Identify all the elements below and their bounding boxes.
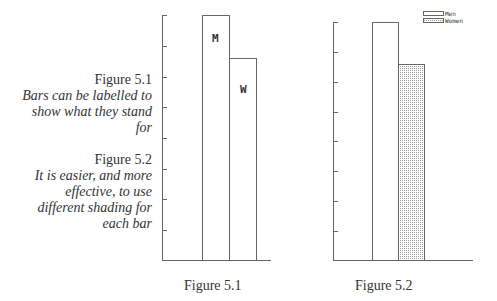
bar-women <box>399 65 425 261</box>
legend-label-women: Women <box>445 17 463 24</box>
caption-title: Figure 5.2 <box>0 152 152 168</box>
caption-figure-5-2: Figure 5.2 It is easier, and more effect… <box>0 152 152 232</box>
chart-figure-5-1 <box>162 15 271 261</box>
legend: Men Women <box>424 10 464 24</box>
bar-men <box>373 23 399 261</box>
caption-figure-5-1: Figure 5.1 Bars can be labelled to show … <box>0 72 152 136</box>
legend-swatch-women <box>424 19 444 23</box>
caption-line: It is easier, and more <box>0 168 152 184</box>
chart-figure-5-2 <box>333 22 473 261</box>
caption-title: Figure 5.1 <box>0 72 152 88</box>
charts-canvas: M W Men Women <box>0 0 497 301</box>
caption-line: effective, to use <box>0 184 152 200</box>
bar-label-m: M <box>212 32 219 45</box>
figure-label-5-2: Figure 5.2 <box>355 278 413 294</box>
caption-line: different shading for <box>0 200 152 216</box>
bar-label-w: W <box>240 83 247 96</box>
caption-line: for <box>0 120 152 136</box>
caption-line: show what they stand <box>0 104 152 120</box>
caption-line: Bars can be labelled to <box>0 88 152 104</box>
bar-men <box>203 16 230 261</box>
legend-label-men: Men <box>445 10 456 17</box>
figure-label-5-1: Figure 5.1 <box>184 278 242 294</box>
legend-swatch-men <box>424 12 444 16</box>
caption-line: each bar <box>0 216 152 232</box>
